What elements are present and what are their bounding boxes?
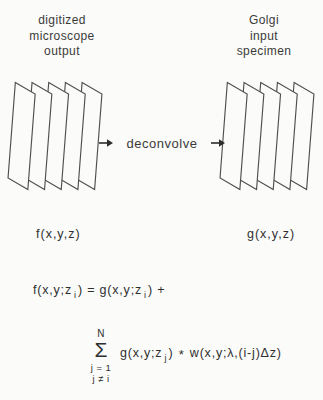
equation-1-part: ) = g(x,y;z	[78, 283, 142, 297]
label-digitized-microscope-output: digitized microscope output	[8, 13, 116, 60]
caption-f-xyz: f(x,y,z)	[36, 227, 81, 241]
summation-block: N Σ j = 1 j ≠ i	[84, 329, 118, 383]
sigma-symbol: Σ	[84, 340, 118, 360]
subscript-j: j	[164, 353, 166, 363]
process-row: deconvolve	[99, 135, 225, 151]
figure-canvas: digitized microscope output Golgi input …	[0, 0, 323, 400]
subscript-i: i	[74, 290, 76, 300]
caption-g-xyz: g(x,y,z)	[247, 227, 295, 241]
arrow-right-icon	[99, 138, 113, 148]
equation-2: g(x,y;zj) * w(x,y;λ,(i-j)Δz)	[120, 345, 282, 360]
equation-2-part: w(x,y;λ,(i-j)Δz)	[190, 346, 282, 360]
image-stack-left	[7, 81, 104, 191]
equation-1: f(x,y;zi) = g(x,y;zi) +	[33, 283, 165, 297]
label-line: Golgi	[210, 13, 318, 29]
equation-1-part: ) +	[148, 283, 165, 297]
summation-condition: j ≠ i	[84, 375, 118, 383]
equation-1-part: f(x,y;z	[33, 283, 72, 297]
equation-2-part: g(x,y;z	[120, 346, 162, 360]
label-line: specimen	[210, 44, 318, 60]
image-stack-right	[219, 81, 316, 191]
label-line: digitized	[8, 13, 116, 29]
process-label: deconvolve	[127, 136, 198, 151]
label-golgi-input-specimen: Golgi input specimen	[210, 13, 318, 60]
subscript-i: i	[144, 290, 146, 300]
equation-2-part: )	[168, 346, 173, 360]
label-line: output	[8, 44, 116, 60]
label-line: input	[210, 29, 318, 45]
summation-lower-limit: j = 1	[84, 364, 118, 372]
arrow-right-icon	[211, 138, 225, 148]
label-line: microscope	[8, 29, 116, 45]
convolution-asterisk: *	[179, 347, 185, 362]
